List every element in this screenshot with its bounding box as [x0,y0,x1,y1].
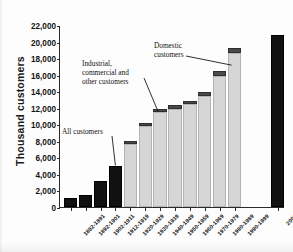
x-axis-tick-mark [175,207,176,211]
bar-segment-all-customers [271,35,284,207]
bar-segment-domestic-customers [153,112,166,207]
y-axis-tick-label: 0 [51,204,56,213]
x-axis-tick-mark [205,207,206,211]
y-axis-title: Thousand customers [14,36,28,186]
annotation-all-customers: All customers [62,128,103,137]
y-axis-tick-label: 8,000 [36,137,57,146]
y-axis-tick-label: 14,000 [31,88,56,97]
x-axis-tick-mark [145,207,146,211]
bar [213,71,226,207]
bar-segment-all-customers [64,198,77,207]
x-axis-tick-mark [101,207,102,211]
bar [228,48,241,207]
chart-figure: Thousand customers 02,0004,0006,0008,000… [0,0,293,252]
x-axis-tick-mark [71,207,72,211]
bar [198,92,211,207]
y-axis-tick-label: 10,000 [31,121,56,130]
bar [139,123,152,207]
bar-segment-all-customers [79,195,92,207]
bar-segment-domestic-customers [198,96,211,207]
bar-segment-domestic-customers [168,109,181,207]
bar-segment-domestic-customers [213,76,226,207]
x-axis-tick-mark [235,207,236,211]
y-axis-tick-label: 18,000 [31,55,56,64]
y-axis-tick-label: 4,000 [36,170,57,179]
x-axis-tick-mark [190,207,191,211]
bar-segment-all-customers [109,166,122,207]
bar [124,141,137,207]
bar [94,181,107,207]
y-axis-tick-label: 2,000 [36,187,57,196]
annotation-domestic-customers: Domestic customers [154,42,184,60]
x-axis-tick-mark [86,207,87,211]
y-axis-tick-label: 6,000 [36,154,57,163]
bar [153,109,166,207]
x-axis-tick-mark [160,207,161,211]
bar [168,105,181,207]
x-axis-tick-label: 2000 [284,213,293,226]
x-axis-tick-mark [115,207,116,211]
bar-segment-all-customers [94,181,107,207]
y-axis-tick-mark [57,208,61,209]
bar [79,195,92,207]
bar-segment-domestic-customers [124,144,137,207]
y-axis-tick-label: 12,000 [31,104,56,113]
bar [64,198,77,207]
y-axis-tick-label: 16,000 [31,71,56,80]
annotation-industrial-customers: Industrial, commercial and other custome… [82,60,129,87]
y-axis-tick-label: 20,000 [31,38,56,47]
bar-segment-domestic-customers [228,53,241,207]
bar [109,166,122,207]
x-axis-tick-mark [278,207,279,211]
x-axis-tick-mark [220,207,221,211]
bar [271,35,284,207]
x-axis-tick-mark [130,207,131,211]
bar-segment-domestic-customers [139,126,152,207]
y-axis-tick-label: 22,000 [31,22,56,31]
bar-segment-domestic-customers [183,104,196,207]
bar [183,101,196,207]
